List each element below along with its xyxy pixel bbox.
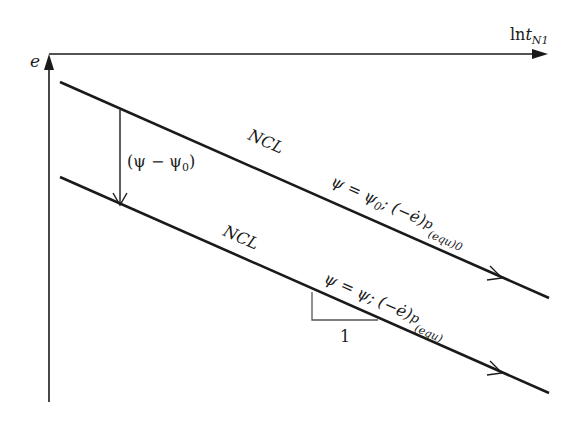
ncl-diagram: e lntN1 NCL ψ = ψ0; (−ė)p(equ)0 NCL ψ = … [0,0,576,421]
lower-ncl-label: NCL [219,221,261,254]
y-axis-arrowhead-icon [44,54,54,70]
lower-ncl-equation: ψ = ψ; (−ė)p(equ) [319,268,450,345]
upper-ncl-equation: ψ = ψ0; (−ė)p(equ)0 [326,171,470,254]
x-axis-arrowhead-icon [532,49,548,59]
x-axis: lntN1 [49,25,548,59]
x-axis-label: lntN1 [510,25,548,47]
y-axis: e [30,51,54,402]
upper-ncl: NCL ψ = ψ0; (−ė)p(equ)0 [60,82,549,298]
lower-ncl: NCL ψ = ψ; (−ė)p(equ) [60,177,549,393]
y-axis-label: e [30,51,40,71]
slope-run-label: 1 [340,327,350,346]
shift-arrow-label: (ψ − ψ0) [127,152,195,174]
upper-ncl-label: NCL [244,125,286,158]
